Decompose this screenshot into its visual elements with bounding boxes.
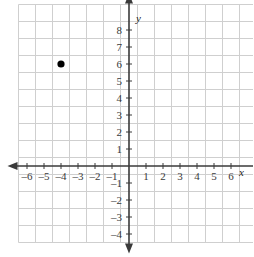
x-tick-label: 2 [160, 170, 166, 182]
x-tick-label: 5 [211, 170, 217, 182]
x-tick-label: –2 [89, 170, 101, 182]
y-tick-label: 4 [117, 92, 123, 104]
x-tick-label: –4 [55, 170, 68, 182]
plotted-point [57, 60, 64, 67]
y-tick-label: –3 [110, 211, 123, 223]
x-tick-label: 3 [177, 170, 183, 182]
y-tick-label: 7 [117, 41, 123, 53]
axis-name-labels: x y [135, 12, 244, 178]
y-tick-label: 2 [117, 126, 123, 138]
y-axis-arrow-up [125, 0, 133, 4]
coordinate-plane-svg: –6–5–4–3–2–112345687654321–1–2–3–4 x y [0, 0, 253, 257]
x-tick-label: –3 [72, 170, 85, 182]
plotted-points [57, 60, 64, 67]
x-axis-arrow-left [8, 162, 18, 170]
y-tick-label: –4 [110, 228, 123, 240]
y-tick-label: 1 [117, 143, 123, 155]
x-tick-label: 1 [143, 170, 149, 182]
y-axis-label: y [135, 12, 141, 24]
y-tick-label: –2 [110, 194, 122, 206]
y-tick-label: 6 [117, 58, 123, 70]
y-tick-label: 5 [117, 75, 123, 87]
y-tick-label: 3 [117, 109, 123, 121]
x-tick-label: 6 [228, 170, 234, 182]
grid-lines [19, 5, 254, 243]
x-tick-label: 4 [194, 170, 200, 182]
x-tick-label: –5 [38, 170, 51, 182]
y-tick-label: 8 [117, 24, 123, 36]
x-axis-label: x [238, 166, 244, 178]
coordinate-plane-figure: –6–5–4–3–2–112345687654321–1–2–3–4 x y [0, 0, 253, 257]
y-axis-arrow-down [125, 244, 133, 254]
x-tick-label: –6 [21, 170, 34, 182]
y-tick-label: –1 [110, 177, 122, 189]
